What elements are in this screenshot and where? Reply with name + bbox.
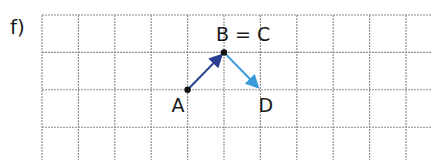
vectors	[188, 52, 258, 89]
point-label-A: A	[172, 94, 185, 116]
point-label-D: D	[258, 94, 273, 116]
point-A	[184, 87, 190, 93]
exercise-label: f)	[10, 15, 25, 39]
vector-B-D	[224, 52, 257, 86]
vector-A-B	[188, 55, 221, 89]
vector-diagram: f) AB = CD	[0, 0, 432, 160]
points: AB = CD	[172, 23, 273, 115]
point-B	[221, 49, 227, 55]
point-label-B: B = C	[216, 23, 270, 45]
